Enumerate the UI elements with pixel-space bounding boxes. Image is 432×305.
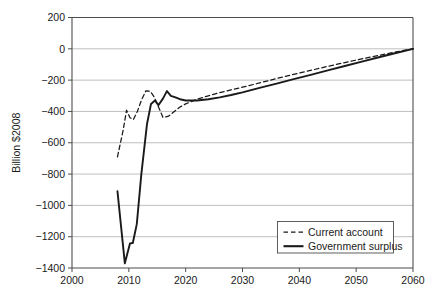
- x-tick-label: 2030: [231, 274, 255, 286]
- x-tick-label: 2010: [117, 274, 141, 286]
- line-chart: 2000−200−400−600−800−1000−1200−1400 2000…: [0, 0, 432, 305]
- y-tick-label: −1200: [36, 230, 66, 242]
- chart-legend: Current accountGovernment surplus: [278, 222, 403, 254]
- x-tick-label: 2020: [174, 274, 198, 286]
- y-tick-label: 0: [59, 43, 65, 55]
- x-tick-label: 2050: [344, 274, 368, 286]
- y-axis-title-text: Billion $2008: [10, 113, 22, 173]
- y-tick-label: −600: [41, 136, 65, 148]
- y-tick-label: −200: [41, 74, 65, 86]
- x-tick-label: 2060: [401, 274, 425, 286]
- chart-container: 2000−200−400−600−800−1000−1200−1400 2000…: [0, 0, 432, 305]
- x-tick-label: 2040: [288, 274, 312, 286]
- x-tick-label: 2000: [60, 274, 84, 286]
- y-tick-label: −400: [41, 105, 65, 117]
- legend-label-current-account: Current account: [308, 226, 383, 238]
- y-tick-label: −1000: [36, 199, 66, 211]
- y-tick-label: 200: [47, 11, 65, 23]
- y-axis-title: Billion $2008: [10, 113, 22, 173]
- y-tick-label: −1400: [36, 262, 66, 274]
- legend-label-government-surplus: Government surplus: [308, 240, 403, 252]
- y-tick-label: −800: [41, 168, 65, 180]
